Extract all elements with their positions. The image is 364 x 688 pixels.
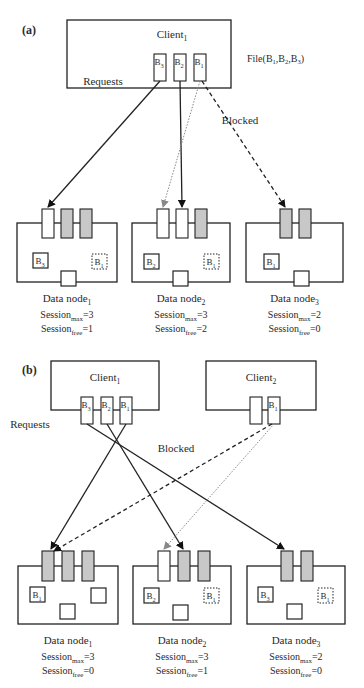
panel-b: (b)Client1B3B2B1Client2B1RequestsBlocked… bbox=[10, 361, 345, 679]
label-text: Sessionmax=3 bbox=[40, 309, 93, 323]
panel-a: (a)Client1B3B2B1File(B1,B2,B3)RequestsBl… bbox=[17, 20, 343, 337]
session-slot bbox=[195, 209, 207, 238]
file-label: File(B1,B2,B3) bbox=[247, 53, 304, 65]
session-slot bbox=[281, 551, 293, 581]
session-slot bbox=[178, 551, 190, 581]
label-text: Sessionfree=2 bbox=[155, 323, 207, 337]
requests-label: Requests bbox=[10, 418, 50, 430]
label-text: Sessionmax=3 bbox=[154, 309, 207, 323]
label-text: Data node1 bbox=[43, 292, 92, 307]
session-slot bbox=[62, 551, 74, 581]
empty-block bbox=[294, 271, 309, 286]
label-text: Sessionfree=0 bbox=[42, 665, 94, 679]
dashed-request-arrow bbox=[202, 81, 285, 207]
data-node-3: B3B1Data node3Sessionmax=2Sessionfree=0 bbox=[247, 551, 345, 679]
label-text: Sessionmax=2 bbox=[269, 651, 322, 665]
session-slot bbox=[299, 209, 311, 238]
session-slot bbox=[61, 209, 73, 238]
session-slot bbox=[158, 551, 170, 581]
blocked-label: Blocked bbox=[158, 442, 195, 454]
client-1: Client1B3B2B1 bbox=[51, 361, 159, 424]
label-text: Sessionmax=2 bbox=[268, 309, 321, 323]
empty-block bbox=[287, 604, 302, 619]
label-text: Data node3 bbox=[272, 634, 321, 649]
session-slot bbox=[301, 551, 313, 581]
label-text: Sessionfree=1 bbox=[41, 323, 93, 337]
solid-request-arrow bbox=[48, 81, 160, 207]
empty-block bbox=[61, 271, 76, 286]
blocked-label: Blocked bbox=[222, 114, 259, 126]
panel-label: (a) bbox=[22, 23, 36, 37]
data-node-1: B3B1Data node1Sessionmax=3Sessionfree=1 bbox=[17, 209, 117, 337]
data-node-1: B1Data node1Sessionmax=3Sessionfree=0 bbox=[18, 551, 118, 679]
client-2: Client2B1 bbox=[206, 361, 316, 424]
replica-session-diagram: (a)Client1B3B2B1File(B1,B2,B3)RequestsBl… bbox=[0, 0, 364, 688]
empty-block bbox=[60, 604, 75, 619]
session-slot bbox=[198, 551, 210, 581]
label-text: Sessionmax=3 bbox=[41, 651, 94, 665]
session-slot bbox=[42, 551, 54, 581]
label-text: Data node1 bbox=[44, 634, 93, 649]
label-text: Data node2 bbox=[157, 292, 206, 307]
label-text: Data node2 bbox=[158, 634, 207, 649]
session-slot bbox=[176, 209, 188, 238]
label-text: Data node3 bbox=[270, 292, 319, 307]
empty-block bbox=[91, 588, 106, 603]
request-block-slot bbox=[250, 397, 262, 424]
data-node-2: B2B1Data node2Sessionmax=3Sessionfree=1 bbox=[133, 551, 231, 679]
panel-label: (b) bbox=[22, 363, 37, 377]
session-slot bbox=[82, 551, 94, 581]
requests-label: Requests bbox=[83, 75, 123, 87]
empty-block bbox=[173, 605, 188, 620]
session-slot bbox=[280, 209, 292, 238]
label-text: Sessionmax=3 bbox=[155, 651, 208, 665]
data-node-3: B1Data node3Sessionmax=2Sessionfree=0 bbox=[246, 209, 343, 337]
session-slot bbox=[157, 209, 169, 238]
label-text: Sessionfree=0 bbox=[268, 323, 320, 337]
label-text: Sessionfree=0 bbox=[270, 665, 322, 679]
label-text: Sessionfree=1 bbox=[156, 665, 208, 679]
session-slot bbox=[42, 209, 54, 238]
data-node-2: B2B1Data node2Sessionmax=3Sessionfree=2 bbox=[132, 209, 230, 337]
session-slot bbox=[80, 209, 92, 238]
solid-request-arrow bbox=[180, 81, 182, 207]
empty-block bbox=[173, 271, 188, 286]
